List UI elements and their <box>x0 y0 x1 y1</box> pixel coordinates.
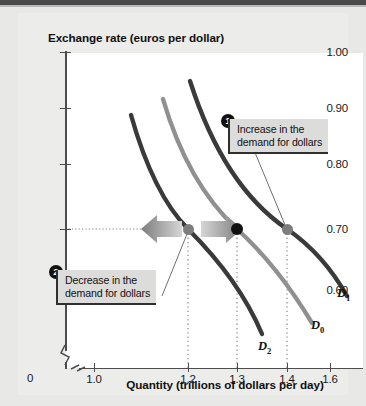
equilibrium-dot-13 <box>231 223 243 235</box>
y-tick-label-080: 0.80 <box>308 158 348 170</box>
x-tick-16 <box>330 363 331 372</box>
y-axis-title: Exchange rate (euros per dollar) <box>48 31 224 44</box>
equilibrium-dot-14 <box>282 224 293 235</box>
arrow-decrease <box>141 215 182 243</box>
page-top-rule <box>0 0 366 7</box>
axis-break-marks <box>56 343 96 377</box>
annotation-callout-increase: Increase in the demand for dollars <box>228 119 328 154</box>
x-tick-13 <box>237 363 238 372</box>
plot-area: D1 D0 D2 <box>66 53 363 368</box>
y-tick-label-060: 0.60 <box>308 284 348 296</box>
x-axis <box>79 368 363 370</box>
x-tick-12 <box>188 363 189 372</box>
y-tick-label-090: 0.90 <box>308 102 348 114</box>
figure-panel: Exchange rate (euros per dollar) <box>18 13 348 395</box>
y-tick-080 <box>60 164 71 165</box>
annotation-2-line-2: demand for dollars <box>65 287 150 300</box>
curve-label-d0: D0 <box>311 318 324 335</box>
annotation-1-line-2: demand for dollars <box>237 136 322 149</box>
y-tick-090 <box>60 108 71 109</box>
x-axis-title-text: Quantity (trillions of dollars per day) <box>42 378 323 391</box>
curve-label-d2: D2 <box>258 339 271 356</box>
x-tick-10 <box>94 363 95 372</box>
y-tick-label-100: 1.00 <box>308 46 348 58</box>
x-axis-title: Quantity (trillions of dollars per day) <box>0 378 366 391</box>
x-tick-14 <box>287 363 288 372</box>
y-axis <box>65 51 67 351</box>
equilibrium-dot-12 <box>183 224 194 235</box>
annotation-2-line-1: Decrease in the <box>65 274 150 287</box>
annotation-callout-decrease: Decrease in the demand for dollars <box>56 270 156 305</box>
y-tick-100 <box>60 52 71 53</box>
y-tick-070 <box>60 229 71 230</box>
annotation-1-line-1: Increase in the <box>237 123 322 136</box>
leader-line-2 <box>162 234 187 296</box>
y-tick-label-070: 0.70 <box>308 223 348 235</box>
